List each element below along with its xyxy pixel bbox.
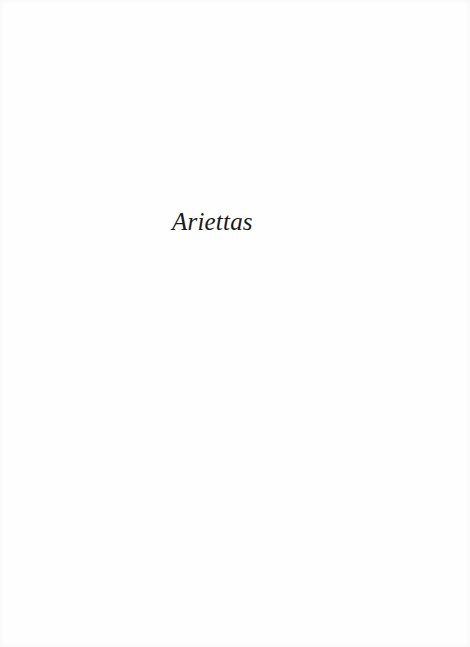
book-page: Ariettas (0, 0, 470, 647)
section-title: Ariettas (172, 207, 253, 237)
